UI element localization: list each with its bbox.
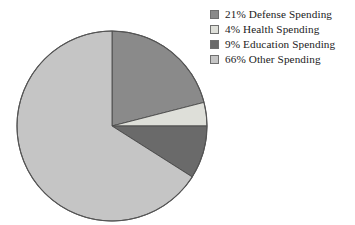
- legend-item[interactable]: 21% Defense Spending: [210, 7, 352, 22]
- legend-item[interactable]: 66% Other Spending: [210, 52, 352, 67]
- legend-item[interactable]: 4% Health Spending: [210, 22, 352, 37]
- legend-swatch-icon: [210, 55, 219, 64]
- legend-item-label: 66% Other Spending: [225, 52, 321, 67]
- chart-legend: 21% Defense Spending4% Health Spending9%…: [210, 7, 352, 67]
- legend-item[interactable]: 9% Education Spending: [210, 37, 352, 52]
- legend-swatch-icon: [210, 40, 219, 49]
- legend-item-label: 4% Health Spending: [225, 22, 319, 37]
- pie-svg: [16, 30, 208, 222]
- pie-slice-group: [17, 31, 207, 221]
- legend-item-label: 21% Defense Spending: [225, 7, 332, 22]
- legend-swatch-icon: [210, 25, 219, 34]
- pie-chart-graphic: [16, 30, 208, 222]
- legend-item-label: 9% Education Spending: [225, 37, 335, 52]
- legend-swatch-icon: [210, 10, 219, 19]
- pie-chart-figure: 21% Defense Spending4% Health Spending9%…: [0, 0, 355, 225]
